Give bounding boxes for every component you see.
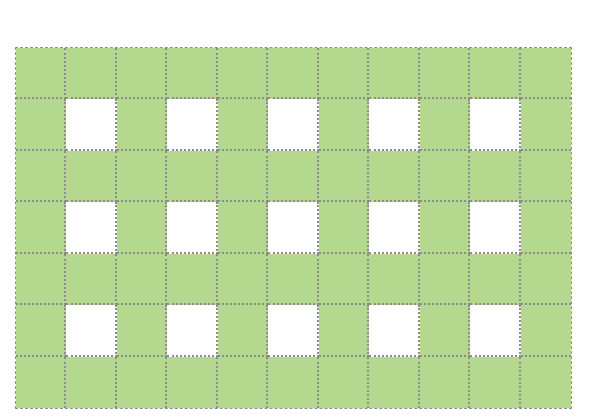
grid-cell-white <box>66 202 116 253</box>
grid-cell-green <box>16 357 66 408</box>
grid-cell-green <box>167 254 217 305</box>
grid-cell-green <box>167 357 217 408</box>
grid-cell-green <box>117 151 167 202</box>
grid-cell-green <box>218 99 268 150</box>
grid-cell-white <box>369 305 419 356</box>
grid-cell-green <box>420 305 470 356</box>
grid-cell-green <box>16 151 66 202</box>
grid-cell-green <box>268 151 318 202</box>
grid-cell-green <box>117 99 167 150</box>
grid-cell-green <box>521 254 571 305</box>
grid-cell-green <box>66 254 116 305</box>
grid-cell-green <box>117 357 167 408</box>
grid-cell-green <box>521 357 571 408</box>
grid-cell-white <box>167 305 217 356</box>
grid-cell-green <box>218 357 268 408</box>
grid-cell-green <box>369 254 419 305</box>
grid-cell-green <box>420 48 470 99</box>
grid-cell-white <box>470 202 520 253</box>
grid-cell-green <box>66 48 116 99</box>
grid-cell-green <box>470 48 520 99</box>
grid-cell-green <box>268 254 318 305</box>
grid-cell-white <box>167 202 217 253</box>
grid-cell-green <box>521 305 571 356</box>
grid-cell-green <box>470 357 520 408</box>
grid-cell-green <box>319 357 369 408</box>
grid-cell-green <box>521 151 571 202</box>
grid-cell-green <box>521 202 571 253</box>
grid-cell-green <box>369 357 419 408</box>
grid-cell-green <box>218 48 268 99</box>
grid-cell-green <box>268 48 318 99</box>
grid-cell-green <box>470 254 520 305</box>
grid-cell-green <box>319 305 369 356</box>
grid-cell-green <box>66 357 116 408</box>
grid-cell-white <box>268 202 318 253</box>
grid-cell-white <box>268 99 318 150</box>
grid-cell-green <box>16 99 66 150</box>
grid-cell-white <box>369 202 419 253</box>
grid-cell-green <box>218 202 268 253</box>
grid-cell-green <box>16 305 66 356</box>
grid-cell-green <box>420 202 470 253</box>
grid-cell-green <box>369 48 419 99</box>
grid-cell-green <box>420 254 470 305</box>
grid-cell-green <box>420 357 470 408</box>
grid-cell-green <box>319 99 369 150</box>
grid-cell-white <box>66 99 116 150</box>
grid-cell-green <box>470 151 520 202</box>
grid-cell-green <box>420 99 470 150</box>
grid-cell-green <box>16 202 66 253</box>
grid-cell-white <box>369 99 419 150</box>
grid-cell-green <box>369 151 419 202</box>
grid-cell-green <box>521 99 571 150</box>
grid-cell-green <box>117 254 167 305</box>
grid-cell-green <box>167 151 217 202</box>
grid-diagram <box>15 47 572 409</box>
grid-cell-green <box>117 202 167 253</box>
grid-cell-green <box>16 48 66 99</box>
grid-cell-green <box>117 48 167 99</box>
grid-cell-green <box>319 254 369 305</box>
grid-cell-green <box>319 48 369 99</box>
grid-cell-green <box>268 357 318 408</box>
grid-cell-green <box>117 305 167 356</box>
grid-cell-white <box>470 305 520 356</box>
grid-cell-green <box>66 151 116 202</box>
grid-cell-white <box>470 99 520 150</box>
grid-cell-green <box>218 254 268 305</box>
grid-cell-white <box>268 305 318 356</box>
grid-cell-white <box>167 99 217 150</box>
grid-cell-white <box>66 305 116 356</box>
grid-cell-green <box>521 48 571 99</box>
grid-cell-green <box>218 151 268 202</box>
grid-cell-green <box>319 151 369 202</box>
grid-cell-green <box>218 305 268 356</box>
grid-cell-green <box>167 48 217 99</box>
grid-cell-green <box>16 254 66 305</box>
grid-cell-green <box>420 151 470 202</box>
grid-cell-green <box>319 202 369 253</box>
